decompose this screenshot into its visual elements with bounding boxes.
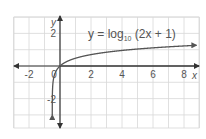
equation-prefix: y = log: [88, 27, 124, 41]
log-graph: -224682-20 y x y = log10 (2x + 1): [0, 0, 206, 139]
y-tick-label: 2: [50, 28, 56, 39]
y-tick-label: -2: [47, 94, 56, 105]
x-tick-label: 8: [181, 69, 187, 80]
x-tick-label: 4: [119, 69, 125, 80]
equation-suffix: (2x + 1): [132, 27, 176, 41]
x-tick-label: 6: [150, 69, 156, 80]
y-axis-label: y: [50, 17, 57, 28]
x-axis-label: x: [191, 70, 198, 81]
log-curve: [52, 45, 196, 115]
equation-subscript: 10: [124, 35, 132, 42]
x-tick-label: 2: [88, 69, 94, 80]
x-tick-label: -2: [25, 69, 34, 80]
equation-label: y = log10 (2x + 1): [88, 27, 176, 42]
origin-label: 0: [51, 69, 57, 80]
